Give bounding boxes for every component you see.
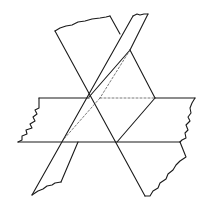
three-planes-diagram: Three intersecting planes <box>0 0 206 206</box>
tilted-plane-a <box>55 16 186 196</box>
horizontal-plane <box>18 98 195 142</box>
tilted-plane-b <box>32 14 148 195</box>
diagram-canvas <box>0 0 206 206</box>
hidden-lines <box>63 50 155 140</box>
